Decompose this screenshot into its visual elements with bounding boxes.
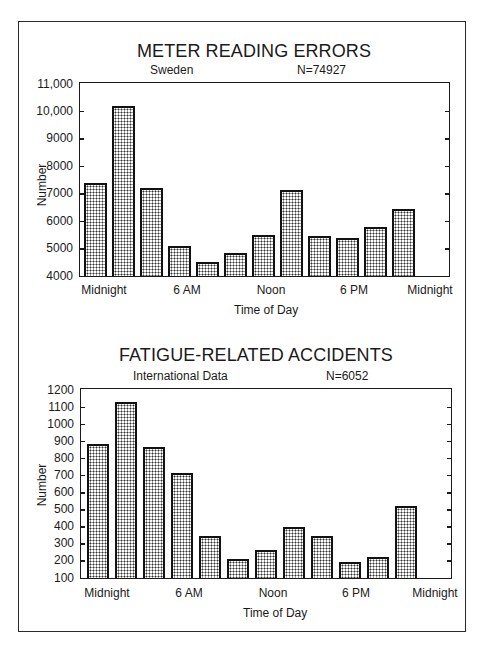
x-tick-label: 6 AM xyxy=(173,283,200,297)
y-tick-mark-right xyxy=(447,526,451,528)
y-tick-mark-right xyxy=(447,407,451,409)
y-tick-mark-right xyxy=(447,475,451,477)
y-tick-label: 400 xyxy=(30,519,74,533)
y-tick-mark-right xyxy=(445,193,449,195)
y-tick-mark-right xyxy=(447,492,451,494)
x-tick-label: 6 AM xyxy=(175,586,202,600)
x-tick-label: Midnight xyxy=(84,586,129,600)
bar xyxy=(308,236,331,276)
y-tick-label: 6000 xyxy=(29,214,73,228)
y-tick-label: 700 xyxy=(30,468,74,482)
bar xyxy=(196,262,219,276)
y-tick-mark-right xyxy=(445,166,449,168)
x-tick-label: 6 PM xyxy=(342,586,370,600)
y-tick-mark-left xyxy=(81,509,85,511)
plot-area xyxy=(79,82,450,277)
bar xyxy=(364,227,387,276)
y-tick-mark-left xyxy=(81,475,85,477)
y-tick-mark-right xyxy=(447,424,451,426)
bar xyxy=(112,106,135,276)
y-tick-label: 8000 xyxy=(29,159,73,173)
y-tick-mark-right xyxy=(447,509,451,511)
bar xyxy=(283,527,305,578)
y-tick-label: 100 xyxy=(30,571,74,585)
y-tick-label: 600 xyxy=(30,485,74,499)
y-tick-label: 7000 xyxy=(29,186,73,200)
bar xyxy=(140,188,163,276)
x-tick-label: Midnight xyxy=(412,586,457,600)
chart-title: METER READING ERRORS xyxy=(137,41,371,62)
y-tick-mark-left xyxy=(80,111,84,113)
bar xyxy=(84,183,107,276)
bar xyxy=(115,402,137,578)
bar xyxy=(252,235,275,276)
bar xyxy=(367,557,389,578)
y-tick-mark-left xyxy=(80,166,84,168)
y-tick-mark-right xyxy=(445,248,449,250)
y-tick-mark-right xyxy=(445,138,449,140)
y-tick-mark-right xyxy=(445,111,449,113)
chart-subtitle-region: International Data xyxy=(133,369,228,383)
bar xyxy=(336,238,359,276)
bar xyxy=(143,447,165,578)
y-tick-mark-left xyxy=(81,543,85,545)
y-tick-label: 900 xyxy=(30,434,74,448)
bar xyxy=(392,209,415,276)
bar xyxy=(87,444,109,578)
bar xyxy=(199,536,221,578)
bar xyxy=(395,506,417,578)
y-tick-label: 800 xyxy=(30,451,74,465)
chart-subtitle-n: N=6052 xyxy=(326,369,368,383)
y-tick-mark-right xyxy=(447,458,451,460)
y-tick-mark-right xyxy=(447,441,451,443)
y-tick-mark-left xyxy=(81,441,85,443)
bar xyxy=(224,253,247,276)
y-tick-mark-left xyxy=(81,560,85,562)
bar xyxy=(339,562,361,578)
y-tick-label: 1200 xyxy=(30,383,74,397)
x-tick-label: Midnight xyxy=(81,283,126,297)
bar xyxy=(168,246,191,276)
x-tick-label: Noon xyxy=(259,586,288,600)
y-tick-mark-left xyxy=(81,424,85,426)
y-tick-mark-left xyxy=(81,407,85,409)
x-tick-label: 6 PM xyxy=(340,283,368,297)
bar xyxy=(280,190,303,276)
y-tick-mark-left xyxy=(81,526,85,528)
x-axis-title: Time of Day xyxy=(243,606,307,620)
y-tick-label: 200 xyxy=(30,553,74,567)
y-tick-mark-right xyxy=(447,543,451,545)
chart-title: FATIGUE-RELATED ACCIDENTS xyxy=(119,345,393,366)
y-tick-label: 10,000 xyxy=(29,104,73,118)
y-tick-label: 4000 xyxy=(29,269,73,283)
y-tick-mark-right xyxy=(445,221,449,223)
y-tick-label: 1100 xyxy=(30,400,74,414)
chart-subtitle-n: N=74927 xyxy=(297,63,346,77)
x-tick-label: Noon xyxy=(257,283,286,297)
bar xyxy=(311,536,333,578)
y-tick-mark-left xyxy=(81,458,85,460)
y-tick-label: 500 xyxy=(30,502,74,516)
chart-subtitle-region: Sweden xyxy=(150,63,193,77)
y-tick-mark-right xyxy=(447,560,451,562)
y-tick-mark-left xyxy=(80,138,84,140)
x-axis-title: Time of Day xyxy=(234,303,298,317)
y-tick-label: 11,000 xyxy=(29,77,73,91)
y-tick-label: 5000 xyxy=(29,241,73,255)
bar xyxy=(171,473,193,578)
plot-area xyxy=(80,388,452,579)
y-tick-mark-left xyxy=(81,492,85,494)
x-tick-label: Midnight xyxy=(407,283,452,297)
y-tick-label: 300 xyxy=(30,536,74,550)
bar xyxy=(255,550,277,578)
y-tick-label: 9000 xyxy=(29,131,73,145)
y-tick-label: 1000 xyxy=(30,417,74,431)
bar xyxy=(227,559,249,578)
